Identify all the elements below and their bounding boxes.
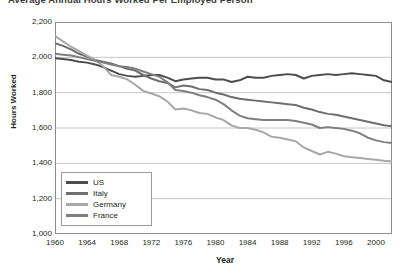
chart-title: Average Annual Hours Worked Per Employed… (8, 0, 400, 5)
legend-swatch-icon (66, 203, 88, 206)
legend-label: Italy (93, 188, 108, 199)
y-tick-label: 2,200 (6, 17, 52, 26)
chart-container: Average Annual Hours Worked Per Employed… (0, 0, 406, 273)
y-tick-label: 2,000 (6, 52, 52, 61)
legend-item-us[interactable]: US (66, 177, 146, 188)
legend-item-italy[interactable]: Italy (66, 188, 146, 199)
legend-swatch-icon (66, 192, 88, 195)
x-axis-label: Year (48, 255, 402, 265)
y-tick-label: 1,800 (6, 88, 52, 97)
legend-swatch-icon (66, 181, 88, 184)
legend-label: France (93, 210, 118, 221)
y-tick-label: 1,200 (6, 194, 52, 203)
legend-item-germany[interactable]: Germany (66, 199, 146, 210)
legend-label: Germany (93, 199, 126, 210)
chart-legend: USItalyGermanyFrance (61, 172, 152, 226)
series-line-germany (55, 36, 392, 161)
y-axis-ticks: 1,0001,2001,4001,6001,8002,0002,200 (0, 0, 52, 273)
y-tick-label: 1,000 (6, 229, 52, 238)
legend-item-france[interactable]: France (66, 210, 146, 221)
x-axis-ticks: 1960196419681972197619801984198819921996… (0, 238, 406, 252)
series-line-italy (55, 43, 392, 126)
y-tick-label: 1,400 (6, 158, 52, 167)
x-tick-label: 2000 (356, 238, 396, 247)
y-tick-label: 1,600 (6, 123, 52, 132)
legend-label: US (93, 177, 104, 188)
legend-swatch-icon (66, 214, 88, 217)
